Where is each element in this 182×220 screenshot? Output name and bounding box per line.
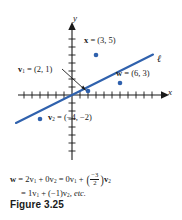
v1-leader-arrow — [62, 69, 87, 91]
vector-v2-label: v2 = (−4, −2) — [48, 113, 92, 122]
figure-container: y x ℓ x = (3, 5) v1 = (2, 1) v2 = (−4, −… — [0, 0, 182, 220]
figure-caption: Figure 3.25 — [10, 199, 64, 210]
eq-plus: + — [77, 174, 86, 184]
eq-plus-0v: + 0v — [36, 174, 54, 184]
eq-2v: = 2v — [16, 174, 34, 184]
vector-v1-label: v1 = (2, 1) — [18, 65, 52, 74]
eq2-minus-1v: + (−1)v — [39, 188, 67, 198]
coordinate-plot — [0, 0, 182, 178]
equation-block: w = 2v1 + 0v2 = 0v1 + (−32)v2 = 1v1 + (−… — [10, 172, 111, 198]
point-v2 — [38, 117, 43, 122]
equation-line-1: w = 2v1 + 0v2 = 0v1 + (−32)v2 — [10, 172, 111, 188]
vector-w-value: = (6, 3) — [122, 68, 149, 78]
x-axis-label: x — [168, 88, 172, 97]
y-axis — [68, 22, 75, 160]
y-axis-label: y — [73, 14, 77, 23]
point-v1 — [86, 89, 91, 94]
point-x — [94, 53, 99, 58]
line-ell-label: ℓ — [157, 54, 161, 64]
eq2-1v: = 1v — [21, 188, 36, 198]
equation-line-2: = 1v1 + (−1)v2, etc. — [10, 188, 111, 198]
eq-close-paren: ) — [100, 173, 103, 188]
eq-fraction-num-value: 3 — [95, 171, 98, 178]
point-w — [118, 81, 123, 86]
eq2-etc: etc. — [74, 188, 86, 198]
vector-v1-value: = (2, 1) — [25, 64, 52, 74]
vector-w-label: w = (6, 3) — [116, 69, 150, 78]
point-x-label: x = (3, 5) — [84, 36, 116, 45]
eq-fraction-denominator: 2 — [90, 180, 99, 187]
eq-sub-4: 2 — [108, 178, 111, 184]
vector-v2-value: = (−4, −2) — [55, 112, 92, 122]
eq-equals-0v: = 0v — [57, 174, 75, 184]
point-x-value: = (3, 5) — [88, 35, 115, 45]
eq-open-paren: ( — [86, 173, 89, 188]
x-axis — [18, 91, 169, 98]
eq-fraction: −32 — [90, 172, 99, 187]
